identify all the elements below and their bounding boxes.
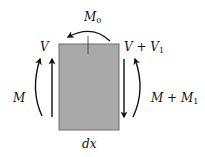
right-shear-label: V + V1 xyxy=(124,41,164,55)
top-moment-label: M0 xyxy=(84,11,101,25)
left-moment-label: M xyxy=(13,92,25,104)
width-label: dx xyxy=(82,138,96,150)
top-moment-arrow-icon xyxy=(68,31,110,41)
beam-element-diagram xyxy=(0,0,205,157)
right-moment-label: M + M1 xyxy=(151,92,198,106)
left-shear-label: V xyxy=(40,41,49,53)
beam-element xyxy=(59,44,119,130)
left-moment-arrow-icon xyxy=(35,59,42,116)
right-moment-arrow-icon xyxy=(133,59,140,117)
